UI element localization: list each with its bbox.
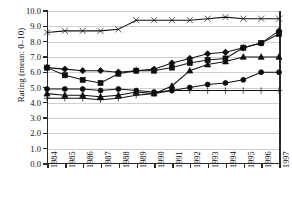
y-axis-tick-label: 7.0: [30, 53, 41, 62]
data-point-circle: [80, 87, 85, 92]
data-point-diamond: [79, 67, 85, 73]
data-point-circle: [259, 70, 264, 75]
data-point-diamond: [62, 66, 68, 72]
data-point-circle: [98, 88, 103, 93]
y-axis-tick-label: 3.0: [30, 114, 41, 123]
data-point-square: [45, 65, 50, 70]
y-axis-tick-label: 2.0: [30, 129, 41, 138]
data-point-circle: [241, 77, 246, 82]
data-point-circle: [277, 70, 282, 75]
data-point-square: [187, 61, 192, 66]
data-point-square: [152, 68, 157, 73]
data-point-plus: [258, 87, 264, 93]
series-cross: [44, 14, 282, 35]
data-point-diamond: [222, 49, 228, 55]
data-point-square: [241, 45, 246, 50]
y-axis-tick-label: 0.0: [30, 160, 41, 169]
data-point-circle: [223, 80, 228, 85]
data-point-square: [277, 31, 282, 36]
data-point-square: [169, 65, 174, 70]
y-axis-tick-label: 8.0: [30, 37, 41, 46]
data-point-plus: [240, 87, 246, 93]
y-axis-title: Rating (mean: 0–10): [16, 0, 26, 130]
y-axis-tick-label: 10.0: [26, 7, 41, 16]
data-point-diamond: [204, 51, 210, 57]
data-point-plus: [204, 87, 210, 93]
data-point-circle: [62, 87, 67, 92]
data-point-plus: [276, 87, 282, 93]
data-point-square: [259, 41, 264, 46]
data-point-square: [62, 73, 67, 78]
data-point-diamond: [97, 67, 103, 73]
x-axis-tick-label: 1997: [283, 151, 291, 168]
y-axis-tick-label: 5.0: [30, 83, 41, 92]
data-point-square: [80, 77, 85, 82]
y-axis-tick-label: 1.0: [30, 144, 41, 153]
series-layer: [47, 11, 279, 164]
y-axis-tick-label: 4.0: [30, 99, 41, 108]
series-line: [47, 31, 279, 72]
data-point-circle: [116, 87, 121, 92]
data-point-circle: [205, 82, 210, 87]
data-point-square: [98, 80, 103, 85]
y-axis-tick-label: 6.0: [30, 68, 41, 77]
y-axis-tick-label: 9.0: [30, 22, 41, 31]
data-point-square: [116, 71, 121, 76]
data-point-plus: [222, 87, 228, 93]
series-diamond: [44, 28, 282, 76]
chart-figure: Rating (mean: 0–10) 0.01.02.03.04.05.06.…: [0, 0, 292, 219]
data-point-square: [134, 68, 139, 73]
data-point-circle: [45, 87, 50, 92]
